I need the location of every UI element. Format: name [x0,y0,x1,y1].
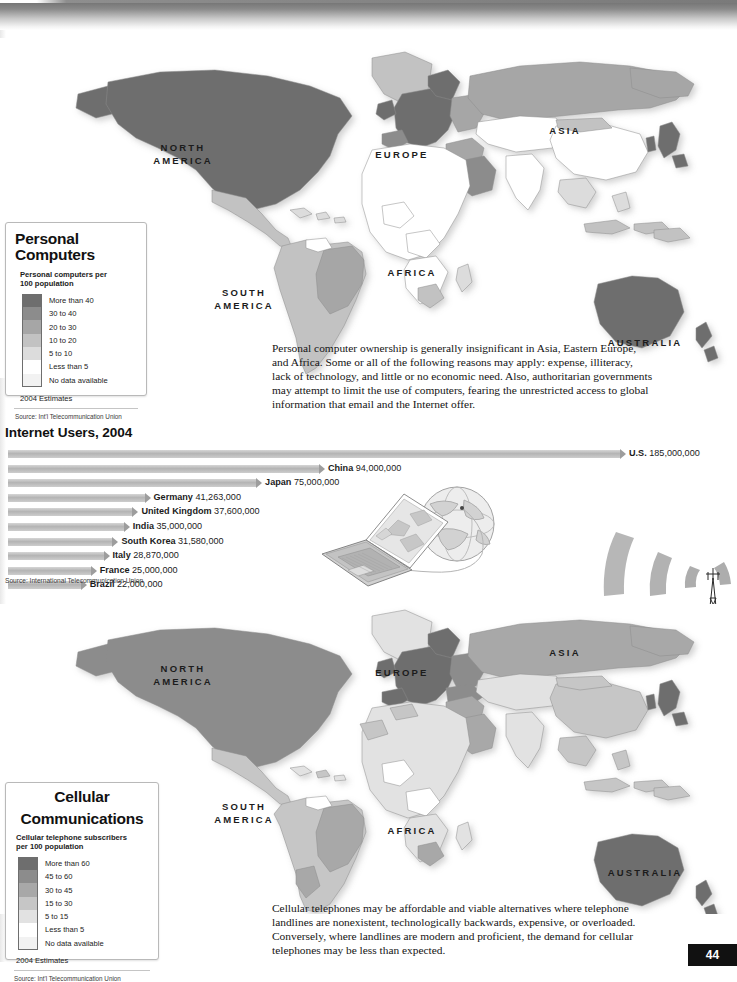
legend-swatch [18,910,38,923]
legend-divider [14,970,150,971]
continent-label-south-america-2: AMERICA [214,300,274,311]
legend-item: 10 to 20 [22,334,146,347]
legend-item: Less than 5 [18,923,158,936]
legend-swatch [18,870,38,883]
legend-swatch-label: Less than 5 [49,362,88,371]
legend-item: Less than 5 [22,360,146,373]
legend-swatch-label: 20 to 30 [49,323,76,332]
legend-swatch [22,320,42,333]
legend-swatch-label: No data available [45,939,104,948]
chart-bar-label: Italy 28,870,000 [113,550,179,560]
legend-swatch [18,897,38,910]
legend-swatch-label: 15 to 30 [45,899,72,908]
chart-bar-country: United Kingdom [141,506,211,516]
legend-item: 5 to 15 [18,910,158,923]
chart-bar-label: United Kingdom 37,600,000 [141,506,259,516]
chart-bar-arrow-cap [112,537,118,547]
legend-item: 45 to 60 [18,870,158,883]
chart-bar [8,567,91,575]
legend-note-pc: 2004 Estimates [20,394,146,403]
page-number: 44 [688,944,737,966]
continent-label-africa: AFRICA [387,825,436,836]
legend-swatch [22,374,42,387]
chart-bar-row: China 94,000,000 [0,464,737,477]
chart-bar-row: U.S. 185,000,000 [0,449,737,462]
chart-bar-country: France [100,565,130,575]
chart-bar [8,508,132,516]
continent-label-europe: EUROPE [375,667,428,678]
continent-label-south-america: SOUTH [222,801,266,812]
continent-label-asia: ASIA [549,647,581,658]
legend-swatch-label: 5 to 15 [45,912,68,921]
continent-label-north-america-2: AMERICA [153,155,213,166]
legend-item: 20 to 30 [22,320,146,333]
chart-bar [8,538,112,546]
legend-title-cellular-line2: Communications [6,811,158,827]
legend-swatch [18,883,38,896]
chart-bar-arrow-cap [319,464,325,474]
legend-swatch [22,307,42,320]
legend-swatch [22,294,42,307]
chart-bar-country: China [328,463,353,473]
chart-bar [8,494,145,502]
legend-item: 5 to 10 [22,347,146,360]
chart-title: Internet Users, 2004 [5,425,132,440]
legend-source-pc: Source: Int'l Telecommunication Union [15,413,146,420]
legend-note-cell: 2004 Estimates [16,956,158,965]
chart-bar [8,465,319,473]
continent-label-north-america: NORTH [161,142,206,153]
legend-swatch-list-pc: More than 40 30 to 40 20 to 30 10 to 20 … [22,294,146,387]
legend-swatch-label: 10 to 20 [49,336,76,345]
legend-swatch [18,857,38,870]
continent-label-asia: ASIA [549,125,581,136]
continent-label-north-america: NORTH [161,663,206,674]
legend-item: 15 to 30 [18,897,158,910]
legend-swatch [18,923,38,936]
legend-swatch-label: 30 to 45 [45,886,72,895]
chart-bar-label: France 25,000,000 [100,565,178,575]
chart-bar-country: Japan [265,477,291,487]
legend-swatch-label: Less than 5 [45,925,84,934]
legend-swatch [18,937,38,950]
chart-bar-country: Germany [154,492,193,502]
chart-bar-arrow-cap [124,522,130,532]
personal-computers-legend: Personal Computers Personal computers pe… [5,222,147,396]
legend-swatch-label: 30 to 40 [49,309,76,318]
legend-item: 30 to 40 [22,307,146,320]
chart-bar-label: China 94,000,000 [328,463,401,473]
legend-item: No data available [22,374,146,387]
continent-label-south-america-2: AMERICA [214,814,274,825]
cellular-communications-legend: Cellular Communications Cellular telepho… [5,782,159,960]
legend-title-cellular-line1: Cellular [6,789,158,805]
legend-divider [14,408,138,409]
legend-swatch-list-cell: More than 60 45 to 60 30 to 45 15 to 30 … [18,857,158,950]
chart-bar-arrow-cap [91,566,97,576]
chart-bar-country: South Korea [121,536,175,546]
continent-label-africa: AFRICA [387,267,436,278]
legend-swatch-label: More than 40 [49,296,94,305]
legend-title-personal-computers: Personal Computers [15,231,146,264]
continent-label-australia: AUSTRALIA [608,867,683,878]
chart-bar-country: U.S. [629,448,647,458]
chart-bar-label: India 35,000,000 [133,521,202,531]
continent-label-europe: EUROPE [375,149,428,160]
chart-bar-arrow-cap [104,551,110,561]
chart-source: Source: International Telecommunication … [5,577,143,584]
legend-swatch-label: More than 60 [45,859,90,868]
legend-swatch [22,334,42,347]
chart-bar-arrow-cap [256,478,262,488]
legend-swatch-label: 5 to 10 [49,349,72,358]
chart-bar-label: U.S. 185,000,000 [629,448,700,458]
continent-label-north-america-2: AMERICA [153,676,213,687]
chart-bar [8,552,104,560]
chart-bar [8,523,124,531]
laptop-and-globe-illustration [312,478,512,590]
cellular-communications-paragraph: Cellular telephones may be affordable an… [272,901,662,957]
legend-swatch-label: No data available [49,376,108,385]
legend-swatch [22,347,42,360]
personal-computers-paragraph: Personal computer ownership is generally… [272,341,654,411]
legend-item: No data available [18,937,158,950]
scan-shadow-band [0,0,737,30]
chart-bar-arrow-cap [132,507,138,517]
chart-bar-label: South Korea 31,580,000 [121,536,223,546]
